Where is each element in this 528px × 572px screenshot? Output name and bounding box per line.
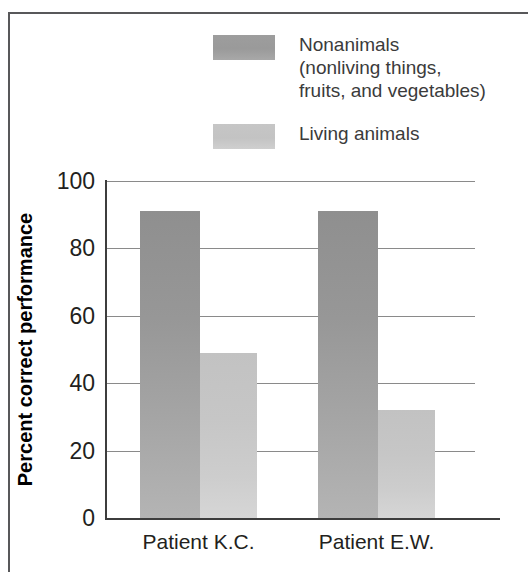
bar-nonanimals-0 bbox=[140, 211, 200, 518]
gridline-100 bbox=[107, 181, 475, 182]
y-tick-label-80: 80 bbox=[69, 235, 95, 262]
bar-nonanimals-1 bbox=[318, 211, 378, 518]
legend-label-nonanimals: Nonanimals (nonliving things, fruits, an… bbox=[299, 33, 486, 102]
bar-living-animals-1 bbox=[378, 410, 435, 518]
y-tick-label-60: 60 bbox=[69, 302, 95, 329]
y-tick-label-20: 20 bbox=[69, 437, 95, 464]
plot-area: 020406080100 Patient K.C.Patient E.W. bbox=[107, 181, 475, 518]
legend-item-nonanimals: Nonanimals (nonliving things, fruits, an… bbox=[213, 33, 503, 102]
x-tick-label-1: Patient E.W. bbox=[319, 530, 435, 554]
legend-swatch-nonanimals-icon bbox=[213, 35, 275, 60]
legend-label-living-animals: Living animals bbox=[299, 122, 419, 145]
y-tick-label-100: 100 bbox=[57, 168, 95, 195]
legend-swatch-living-animals-icon bbox=[213, 124, 275, 149]
y-axis-title: Percent correct performance bbox=[12, 181, 40, 518]
chart-legend: Nonanimals (nonliving things, fruits, an… bbox=[213, 33, 503, 169]
y-tick-label-0: 0 bbox=[82, 505, 95, 532]
bar-living-animals-0 bbox=[200, 353, 257, 518]
x-tick-label-0: Patient K.C. bbox=[142, 530, 254, 554]
y-tick-label-40: 40 bbox=[69, 370, 95, 397]
y-axis-line bbox=[105, 180, 107, 519]
y-axis-title-text: Percent correct performance bbox=[15, 213, 38, 486]
legend-item-living-animals: Living animals bbox=[213, 122, 503, 149]
x-axis-line bbox=[105, 518, 500, 520]
